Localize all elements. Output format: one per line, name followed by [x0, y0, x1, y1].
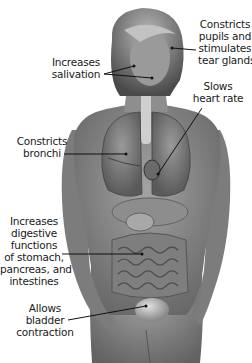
label-line: Increases [46, 56, 106, 68]
label-line: pancreas, and [0, 263, 68, 275]
heart [144, 160, 160, 180]
label-line: contraction [16, 326, 74, 338]
label-line: stimulates [198, 42, 252, 54]
label-line: Slows [186, 80, 250, 92]
label-line: salivation [46, 68, 106, 80]
label-line: bladder [16, 314, 74, 326]
label-line: intestines [0, 275, 68, 287]
label-line: Constricts [14, 135, 70, 147]
label-line: Increases [0, 215, 68, 227]
digestive-organs [112, 198, 188, 298]
label-eyes: Constricts pupils and stimulates tear gl… [198, 18, 252, 66]
label-line: functions [0, 239, 68, 251]
label-line: Constricts [198, 18, 252, 30]
label-line: of stomach, [0, 251, 68, 263]
head [111, 8, 184, 96]
label-line: tear glands [198, 54, 252, 66]
anatomy-figure: Constricts pupils and stimulates tear gl… [0, 0, 252, 363]
bladder [135, 298, 169, 322]
label-digestion: Increases digestive functions of stomach… [0, 215, 68, 287]
label-line: heart rate [186, 92, 250, 104]
label-salivation: Increases salivation [46, 56, 106, 80]
label-bronchi: Constricts bronchi [14, 135, 70, 159]
label-line: bronchi [14, 147, 70, 159]
label-line: pupils and [198, 30, 252, 42]
label-line: digestive [0, 227, 68, 239]
label-bladder: Allows bladder contraction [16, 302, 74, 338]
label-heart: Slows heart rate [186, 80, 250, 104]
label-line: Allows [16, 302, 74, 314]
